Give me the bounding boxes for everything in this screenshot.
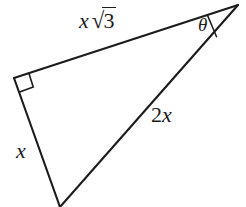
label-short-leg: x: [16, 140, 26, 162]
label-theta-angle: θ: [198, 15, 207, 34]
long-leg-coefficient: 2: [151, 102, 162, 127]
geometry-figure: x√3 x 2x θ: [0, 0, 246, 207]
hypotenuse-variable: x: [79, 8, 89, 33]
label-hypotenuse: x√3: [79, 9, 116, 32]
radical-group: √3: [92, 9, 117, 32]
radicand: 3: [102, 7, 116, 33]
triangle-drawing: [0, 0, 246, 207]
label-long-leg: 2x: [151, 104, 172, 126]
long-leg-variable: x: [162, 102, 172, 127]
side-long-leg: [60, 5, 238, 207]
